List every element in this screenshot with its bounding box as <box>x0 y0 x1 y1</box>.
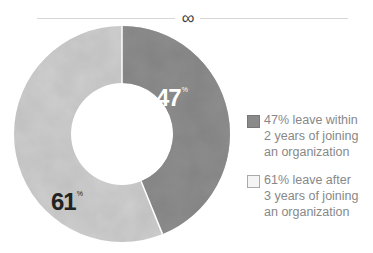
legend-text: 61% leave after 3 years of joining an or… <box>264 172 373 220</box>
donut-chart <box>10 22 234 246</box>
header-divider-left <box>37 18 175 19</box>
slice-61-label: 61% <box>51 188 82 216</box>
legend-text: 47% leave within 2 years of joining an o… <box>264 112 373 160</box>
legend-swatch-dark <box>247 115 260 128</box>
legend-swatch-light <box>247 175 260 188</box>
slice-47-label: 47% <box>156 84 187 112</box>
header-divider-right <box>200 18 348 19</box>
